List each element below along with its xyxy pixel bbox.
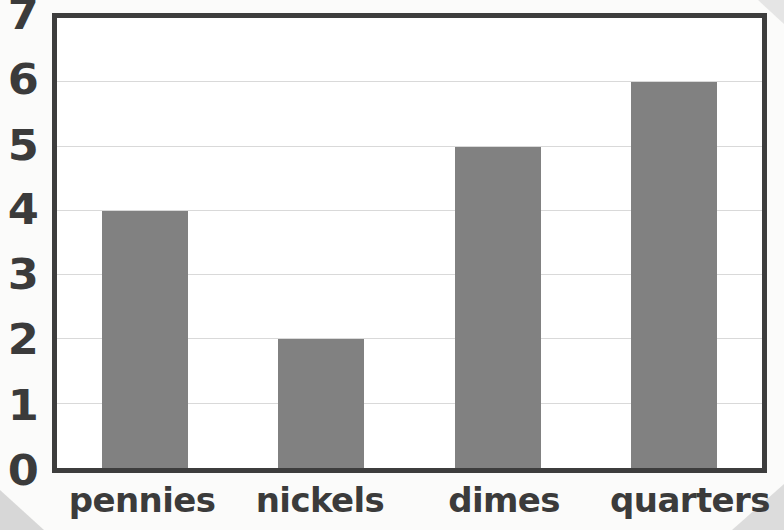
- y-axis-tick-label: 0: [0, 449, 47, 492]
- bar-quarters: [631, 82, 717, 468]
- y-axis-tick-label: 5: [0, 124, 47, 167]
- bar-pennies: [102, 211, 188, 468]
- y-axis-tick-label: 1: [0, 384, 47, 427]
- y-axis-tick-label: 6: [0, 58, 47, 101]
- x-axis-tick-label-nickels: nickels: [220, 480, 420, 520]
- x-axis-tick-label-pennies: pennies: [42, 480, 242, 520]
- y-axis: 7 6 5 4 3 2 1 0: [0, 0, 50, 530]
- chart-page: 7 6 5 4 3 2 1 0 pennies nickels dimes qu…: [0, 0, 784, 530]
- y-axis-tick-label: 3: [0, 253, 47, 296]
- x-axis: pennies nickels dimes quarters: [52, 480, 770, 526]
- y-axis-tick-label: 7: [0, 0, 47, 36]
- x-axis-tick-label-dimes: dimes: [404, 480, 604, 520]
- x-axis-tick-label-quarters: quarters: [580, 480, 784, 520]
- y-axis-tick-label: 2: [0, 318, 47, 361]
- bar-dimes: [455, 147, 541, 468]
- bar-nickels: [278, 339, 364, 468]
- plot-area: [57, 18, 762, 468]
- y-axis-tick-label: 4: [0, 188, 47, 231]
- plot-frame: [52, 13, 767, 473]
